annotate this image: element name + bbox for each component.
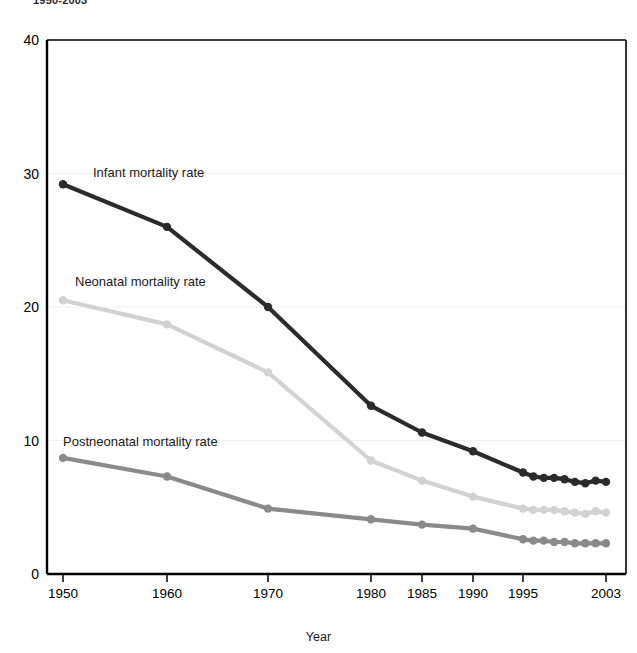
- data-point-1997: [540, 474, 548, 482]
- series-neonatal-mortality-rate: [59, 296, 610, 518]
- data-point-1995: [519, 535, 527, 543]
- series-label-postneonatal: Postneonatal mortality rate: [63, 434, 218, 449]
- data-point-1950: [59, 454, 67, 462]
- data-point-1997: [540, 506, 548, 514]
- data-point-1990: [469, 492, 477, 500]
- data-point-1998: [550, 506, 558, 514]
- data-point-1985: [418, 476, 426, 484]
- data-point-1996: [529, 472, 537, 480]
- chart-container: 1950-2003 Deaths per 1,000 live births Y…: [0, 0, 637, 653]
- data-point-2002: [591, 539, 599, 547]
- data-point-1985: [418, 520, 426, 528]
- series-label-infant: Infant mortality rate: [93, 165, 204, 180]
- data-point-2000: [571, 539, 579, 547]
- data-point-1998: [550, 538, 558, 546]
- data-point-1950: [59, 180, 67, 188]
- data-point-1950: [59, 296, 67, 304]
- data-point-2000: [571, 478, 579, 486]
- series-postneonatal-mortality-rate: [59, 454, 610, 548]
- data-point-2003: [602, 539, 610, 547]
- data-point-1990: [469, 447, 477, 455]
- plot-area: [0, 0, 637, 653]
- data-point-1998: [550, 474, 558, 482]
- data-point-1970: [264, 303, 272, 311]
- data-point-1997: [540, 536, 548, 544]
- data-point-1960: [163, 223, 171, 231]
- data-point-1995: [519, 468, 527, 476]
- data-point-1999: [560, 475, 568, 483]
- data-point-2002: [591, 507, 599, 515]
- data-point-2001: [581, 510, 589, 518]
- data-point-2003: [602, 508, 610, 516]
- data-point-1980: [367, 402, 375, 410]
- data-point-1999: [560, 507, 568, 515]
- data-point-1980: [367, 515, 375, 523]
- data-point-1960: [163, 320, 171, 328]
- data-point-2002: [591, 476, 599, 484]
- data-point-1996: [529, 506, 537, 514]
- series-label-neonatal: Neonatal mortality rate: [75, 274, 206, 289]
- data-point-1996: [529, 536, 537, 544]
- data-point-1970: [264, 504, 272, 512]
- data-point-2003: [602, 478, 610, 486]
- data-point-1960: [163, 472, 171, 480]
- data-point-2000: [571, 508, 579, 516]
- data-point-1970: [264, 368, 272, 376]
- data-point-2001: [581, 479, 589, 487]
- data-point-1995: [519, 504, 527, 512]
- data-point-1990: [469, 524, 477, 532]
- data-point-1985: [418, 428, 426, 436]
- series-line: [63, 300, 606, 514]
- data-point-1980: [367, 456, 375, 464]
- data-point-2001: [581, 539, 589, 547]
- data-point-1999: [560, 538, 568, 546]
